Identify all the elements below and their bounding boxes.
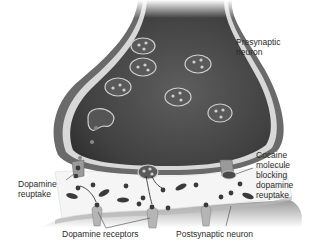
label-presynaptic-neuron: Presynaptic neuron bbox=[236, 37, 280, 57]
label-dopamine-reuptake: Dopamine reuptake bbox=[18, 179, 57, 199]
label-cocaine-molecule: Cocaine molecule blocking dopamine reupt… bbox=[256, 150, 293, 200]
label-postsynaptic-neuron: Postsynaptic neuron bbox=[176, 229, 253, 239]
label-dopamine-receptors: Dopamine receptors bbox=[62, 229, 139, 239]
reuptake-transporter bbox=[72, 160, 84, 178]
presynaptic-neuron bbox=[54, 0, 284, 175]
